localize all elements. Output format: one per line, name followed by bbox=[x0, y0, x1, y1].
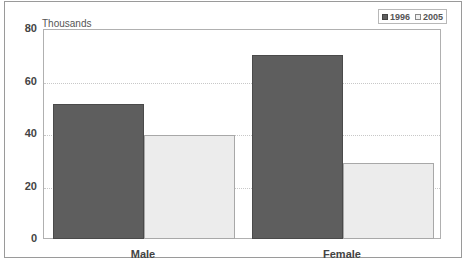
legend-swatch-1996 bbox=[382, 14, 388, 20]
gridline bbox=[44, 83, 440, 84]
y-tick-label: 20 bbox=[7, 180, 37, 192]
legend-label-1996: 1996 bbox=[390, 12, 410, 22]
x-tick-label: Female bbox=[282, 248, 402, 260]
y-tick-label: 80 bbox=[7, 22, 37, 34]
legend-item-2005: 2005 bbox=[415, 12, 443, 22]
bar-female-1996 bbox=[252, 55, 343, 239]
bar-male-2005 bbox=[144, 135, 235, 239]
legend-label-2005: 2005 bbox=[423, 12, 443, 22]
bar-female-2005 bbox=[343, 163, 434, 239]
unit-label: Thousands bbox=[42, 18, 91, 29]
legend-swatch-2005 bbox=[415, 14, 421, 20]
legend-item-1996: 1996 bbox=[382, 12, 410, 22]
legend: 1996 2005 bbox=[378, 9, 447, 24]
y-tick-label: 0 bbox=[7, 232, 37, 244]
bar-male-1996 bbox=[53, 104, 144, 240]
plot-area bbox=[43, 29, 441, 239]
y-tick-label: 40 bbox=[7, 127, 37, 139]
x-tick-label: Male bbox=[83, 248, 203, 260]
y-tick-label: 60 bbox=[7, 75, 37, 87]
